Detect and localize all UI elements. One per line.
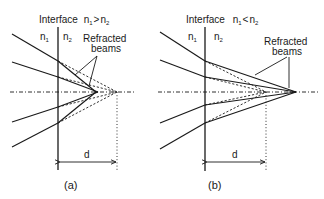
panel-a-medium-n1: n1 bbox=[40, 31, 50, 43]
panel-b-callout-pointer bbox=[255, 57, 287, 75]
panel-a-unrefracted-ray bbox=[58, 92, 117, 123]
panel-b-incident-ray bbox=[160, 32, 205, 61]
panel-b-medium-n2: n2 bbox=[214, 31, 224, 43]
panel-b-refracted-ray bbox=[205, 92, 296, 123]
panel-a-refracted-ray bbox=[58, 92, 98, 107]
panel-a-refracted-ray bbox=[58, 61, 96, 92]
panel-a-distance-label: d bbox=[84, 149, 90, 160]
panel-b: Interface n1<n2 n1 n2 Refracted beams d … bbox=[158, 14, 318, 191]
panel-a-callout-pointer bbox=[89, 56, 97, 86]
panel-b-title: Interface n1<n2 bbox=[186, 14, 259, 26]
panel-b-incident-ray bbox=[160, 60, 205, 77]
panel-b-incident-ray bbox=[160, 105, 205, 123]
panel-b-incident-ray bbox=[160, 123, 205, 149]
panel-b-distance-label: d bbox=[232, 149, 238, 160]
panel-b-unrefracted-ray bbox=[205, 92, 266, 105]
panel-a-incident-ray bbox=[12, 34, 58, 61]
panel-a-refracted-ray bbox=[58, 92, 96, 123]
panel-a-medium-n2: n2 bbox=[63, 31, 73, 43]
panel-b-unrefracted-ray bbox=[205, 61, 266, 92]
panel-a-refracted-ray bbox=[58, 77, 98, 92]
panel-b-refracted-ray bbox=[205, 92, 296, 105]
panel-a-title: Interface n1>n2 bbox=[39, 14, 110, 26]
panel-b-unrefracted-ray bbox=[205, 92, 266, 123]
panel-b-caption: (b) bbox=[208, 179, 221, 191]
panel-b-refracted-ray bbox=[205, 61, 296, 92]
panel-a-callout-line2: beams bbox=[91, 43, 121, 54]
panel-a-incident-ray bbox=[12, 123, 58, 147]
refraction-diagram: Interface n1>n2 n1 n2 Refracted beams d … bbox=[0, 0, 324, 199]
panel-a-incident-ray bbox=[12, 107, 58, 122]
panel-a: Interface n1>n2 n1 n2 Refracted beams d … bbox=[10, 14, 136, 191]
panel-b-callout-line2: beams bbox=[272, 46, 302, 57]
panel-b-medium-n1: n1 bbox=[188, 31, 198, 43]
panel-a-caption: (a) bbox=[64, 179, 77, 191]
panel-a-unrefracted-ray bbox=[58, 61, 117, 92]
panel-a-incident-ray bbox=[12, 62, 58, 77]
panel-a-callout-pointer bbox=[75, 56, 97, 75]
panel-b-refracted-ray bbox=[205, 77, 296, 92]
